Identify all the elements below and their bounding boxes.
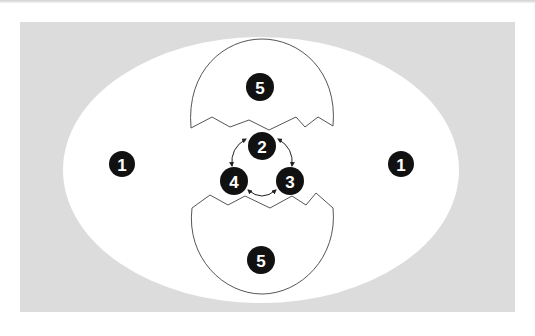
egg-diagram: 1 1 5 5 2 4 3 bbox=[0, 0, 535, 336]
marker-right-1: 1 bbox=[388, 151, 414, 177]
svg-text:1: 1 bbox=[117, 156, 126, 175]
svg-text:4: 4 bbox=[229, 173, 239, 192]
marker-cycle-2: 2 bbox=[248, 132, 276, 160]
marker-cycle-4: 4 bbox=[220, 167, 248, 195]
svg-text:2: 2 bbox=[257, 138, 266, 157]
marker-top-shell-5: 5 bbox=[246, 73, 274, 101]
marker-bottom-shell-5: 5 bbox=[247, 246, 275, 274]
svg-text:5: 5 bbox=[255, 79, 264, 98]
marker-cycle-3: 3 bbox=[276, 167, 304, 195]
marker-left-1: 1 bbox=[109, 151, 135, 177]
svg-text:1: 1 bbox=[396, 156, 405, 175]
svg-text:3: 3 bbox=[285, 173, 294, 192]
svg-text:5: 5 bbox=[256, 252, 265, 271]
